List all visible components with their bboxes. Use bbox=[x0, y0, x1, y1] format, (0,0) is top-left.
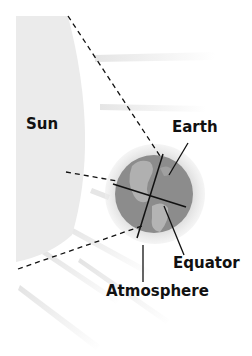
sun-label: Sun bbox=[26, 117, 58, 132]
sun-earth-diagram bbox=[0, 0, 252, 356]
atmosphere-label: Atmosphere bbox=[106, 284, 209, 299]
earth-globe bbox=[115, 155, 193, 233]
sun-shape bbox=[16, 16, 85, 262]
equator-label: Equator bbox=[173, 256, 240, 271]
earth-label: Earth bbox=[172, 120, 218, 135]
